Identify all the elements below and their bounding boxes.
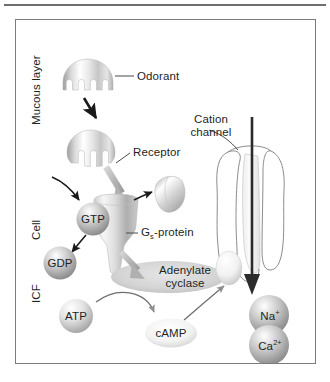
sodium-charge: +: [275, 308, 279, 317]
cation-channel-shape: [216, 146, 284, 285]
cation-channel-line1: Cation: [194, 113, 228, 125]
odorant-to-receptor-arrow: [84, 98, 96, 118]
subunit-release-arrow: [134, 192, 152, 200]
gtp-to-gdp-arrow: [72, 235, 86, 252]
sodium-symbol: Na: [260, 310, 275, 322]
label-icf: ICF: [30, 284, 42, 303]
receptor-protein-shape: [67, 130, 115, 167]
top-rule-divider: [4, 4, 326, 6]
cation-channel-line2: channel: [191, 126, 232, 138]
label-atp: ATP: [61, 310, 91, 322]
receptor-leader-line: [116, 153, 130, 163]
label-camp: cAMP: [151, 327, 191, 339]
g-protein-subunit-shape: [155, 176, 185, 212]
receptor-to-gprotein-arrow: [106, 167, 122, 193]
label-sodium-ion: Na+: [253, 308, 287, 322]
label-gs-protein: Gs-protein: [141, 226, 194, 244]
label-adenylate-cyclase: Adenylate cyclase: [149, 264, 221, 290]
label-gdp: GDP: [44, 257, 76, 269]
label-gtp: GTP: [78, 213, 108, 225]
label-receptor: Receptor: [133, 146, 180, 159]
figure-page: Mucous layer Cell ICF Odorant Cation cha…: [0, 0, 330, 382]
label-calcium-ion: Ca2+: [251, 338, 289, 352]
gtp-binding-arrow: [52, 177, 79, 200]
calcium-symbol: Ca: [258, 340, 273, 352]
figure-panel: Mucous layer Cell ICF Odorant Cation cha…: [15, 19, 316, 364]
odorant-molecule-shape: [63, 59, 113, 90]
gs-protein-suffix: -protein: [154, 226, 194, 238]
gs-protein-prefix: G: [141, 226, 150, 238]
atp-to-camp-arrow: [96, 292, 154, 312]
adenylate-cyclase-line1: Adenylate: [159, 264, 211, 276]
label-cell: Cell: [30, 220, 42, 240]
label-cation-channel: Cation channel: [182, 113, 240, 138]
calcium-charge: 2+: [273, 338, 282, 347]
label-odorant: Odorant: [137, 70, 179, 83]
label-mucous-layer: Mucous layer: [30, 55, 42, 125]
adenylate-cyclase-line2: cyclase: [165, 277, 204, 289]
